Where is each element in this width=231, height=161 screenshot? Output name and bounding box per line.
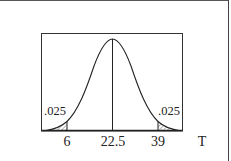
tick-label-mean: 22.5 xyxy=(101,134,126,149)
left-tail-area-label: .025 xyxy=(44,104,66,118)
normal-distribution-diagram: .025 .025 6 22.5 39 T xyxy=(0,0,231,161)
tick-label-lower-cutoff: 6 xyxy=(64,134,71,149)
axis-label-T: T xyxy=(198,134,207,149)
left-tail-shaded-region xyxy=(46,122,67,131)
tick-label-upper-cutoff: 39 xyxy=(151,134,165,149)
right-tail-area-label: .025 xyxy=(158,104,180,118)
right-tail-shaded-region xyxy=(158,122,178,131)
